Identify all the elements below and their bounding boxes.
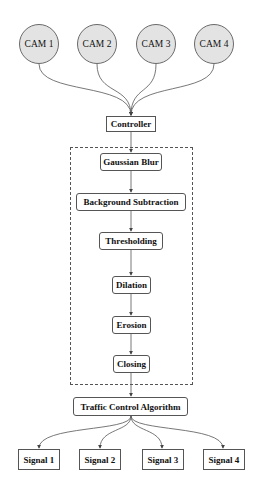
camera-label: CAM 1	[25, 39, 54, 49]
step-label: Erosion	[117, 320, 147, 330]
controller-node: Controller	[106, 116, 156, 132]
camera-node-4: CAM 4	[194, 24, 234, 64]
step-closing: Closing	[113, 355, 150, 373]
step-dilation: Dilation	[112, 276, 151, 294]
step-thresholding: Thresholding	[99, 232, 163, 250]
edge-algorithm-signal1	[39, 416, 131, 448]
controller-label: Controller	[111, 119, 151, 129]
processing-group	[70, 147, 193, 385]
camera-node-1: CAM 1	[19, 24, 59, 64]
camera-label: CAM 2	[83, 39, 112, 49]
edge-algorithm-signal4	[131, 416, 223, 448]
traffic-control-algorithm-node: Traffic Control Algorithm	[73, 397, 188, 416]
signal-node-1: Signal 1	[18, 449, 60, 470]
camera-label: CAM 3	[142, 39, 171, 49]
edge-algorithm-signal2	[100, 416, 131, 448]
signal-label: Signal 3	[148, 455, 179, 465]
signal-node-2: Signal 2	[79, 449, 121, 470]
signal-label: Signal 4	[209, 455, 240, 465]
step-label: Background Subtraction	[83, 197, 178, 207]
step-label: Thresholding	[105, 236, 156, 246]
camera-node-3: CAM 3	[136, 24, 176, 64]
step-label: Gaussian Blur	[103, 157, 158, 167]
algorithm-label: Traffic Control Algorithm	[80, 402, 180, 412]
camera-label: CAM 4	[200, 39, 229, 49]
camera-node-2: CAM 2	[77, 24, 117, 64]
step-label: Closing	[117, 359, 146, 369]
signal-label: Signal 1	[24, 455, 55, 465]
step-label: Dilation	[116, 280, 147, 290]
edge-cam1-controller	[39, 64, 131, 115]
step-background-subtraction: Background Subtraction	[76, 193, 186, 211]
signal-node-3: Signal 3	[142, 449, 184, 470]
signal-label: Signal 2	[85, 455, 116, 465]
edge-algorithm-signal3	[131, 416, 162, 448]
signal-node-4: Signal 4	[203, 449, 245, 470]
edge-cam3-controller	[131, 64, 156, 115]
step-erosion: Erosion	[112, 316, 151, 334]
step-gaussian-blur: Gaussian Blur	[100, 153, 162, 171]
edge-cam2-controller	[97, 64, 131, 115]
